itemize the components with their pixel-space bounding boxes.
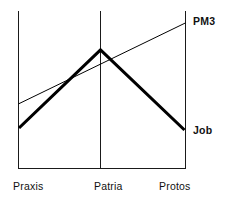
series-label-pm3: PM3 <box>193 15 215 27</box>
series-line-pm3 <box>19 23 186 104</box>
axis-tick-label-praxis: Praxis <box>13 180 43 192</box>
series-line-job <box>19 50 185 130</box>
line-chart-figure: PM3 Job Praxis Patria Protos <box>0 0 230 206</box>
axis-tick-label-patria: Patria <box>94 180 123 192</box>
chart-plot-area <box>0 0 230 206</box>
axis-tick-label-protos: Protos <box>159 180 191 192</box>
series-label-job: Job <box>193 124 212 136</box>
